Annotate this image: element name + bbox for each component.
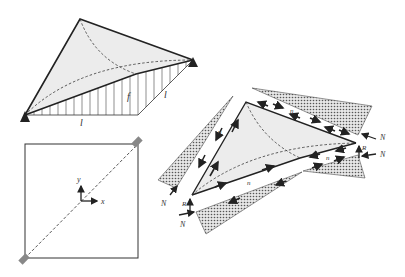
beam-bottom-right	[303, 155, 365, 178]
label-l-bottom: l	[80, 117, 83, 128]
panel-b-plan: y x	[18, 136, 142, 264]
label-N-3: N	[160, 199, 167, 208]
panel-a-shell: f l l	[20, 19, 198, 128]
label-y: y	[76, 175, 81, 184]
label-n-right: n	[326, 154, 330, 162]
label-N-4: N	[179, 220, 186, 229]
label-x: x	[100, 197, 105, 206]
label-n-left: n	[218, 128, 222, 136]
label-n-top: n	[290, 107, 294, 115]
panel-c-exploded: n n n n N N N N R R	[158, 88, 386, 234]
label-N-1: N	[379, 133, 386, 142]
label-R-right: R	[361, 144, 367, 152]
diagram-canvas: f l l y x	[0, 0, 405, 277]
label-N-2: N	[379, 150, 386, 159]
label-R-left: R	[181, 200, 187, 208]
label-n-bottom: n	[247, 179, 251, 187]
label-l-side: l	[164, 89, 167, 100]
